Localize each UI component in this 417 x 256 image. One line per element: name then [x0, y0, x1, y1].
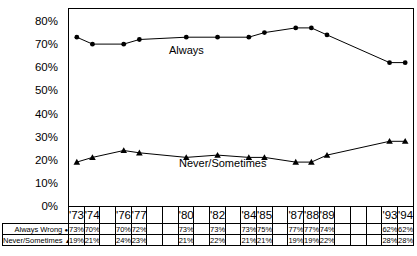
- value-cell: 62%: [382, 224, 398, 235]
- always-point: [262, 30, 267, 35]
- year-cell: '77: [131, 207, 147, 224]
- year-cell: '76: [116, 207, 132, 224]
- value-cell: 21%: [178, 235, 194, 246]
- value-cell: 72%: [131, 224, 147, 235]
- always-point: [325, 32, 330, 37]
- value-cell: [147, 235, 163, 246]
- value-cell: 73%: [69, 224, 85, 235]
- never-sometimes-point: [120, 147, 127, 153]
- year-cell: [194, 207, 210, 224]
- year-cell: '82: [210, 207, 226, 224]
- year-cell: [147, 207, 163, 224]
- plot-area: Always Never/Sometimes: [68, 8, 414, 207]
- value-cell: [100, 224, 116, 235]
- value-cell: 77%: [304, 224, 320, 235]
- value-cell: 21%: [84, 235, 100, 246]
- always-point: [309, 26, 314, 31]
- y-tick-label: 30%: [0, 130, 58, 144]
- value-cell: 75%: [257, 224, 273, 235]
- table-row: Never/Sometimes ▲19%21%24%23%21%22%21%21…: [3, 235, 414, 246]
- y-tick-label: 70%: [0, 37, 58, 51]
- value-cell: 73%: [210, 224, 226, 235]
- table-row: Always Wrong ●73%70%70%72%73%73%73%75%77…: [3, 224, 414, 235]
- year-cell: '85: [257, 207, 273, 224]
- always-point: [184, 35, 189, 40]
- y-tick-label: 80%: [0, 14, 58, 28]
- year-cell: '73: [69, 207, 85, 224]
- value-cell: 28%: [398, 235, 414, 246]
- value-cell: [351, 235, 367, 246]
- value-cell: 22%: [210, 235, 226, 246]
- always-point: [403, 60, 408, 65]
- y-tick-label: 10%: [0, 176, 58, 190]
- year-cell: [225, 207, 241, 224]
- value-cell: [194, 235, 210, 246]
- always-point: [387, 60, 392, 65]
- row-label-text: Always Wrong: [14, 225, 64, 234]
- value-cell: 19%: [304, 235, 320, 246]
- value-cell: [163, 235, 179, 246]
- row-label-always-wrong: Always Wrong ●: [3, 224, 69, 235]
- always-point: [293, 26, 298, 31]
- year-cell: [163, 207, 179, 224]
- year-cell: '88: [304, 207, 320, 224]
- table-corner-cell: [3, 207, 69, 224]
- year-cell: [366, 207, 382, 224]
- value-cell: 70%: [84, 224, 100, 235]
- data-table: '73'74'76'77'80'82'84'85'87'88'89'93'94A…: [2, 207, 414, 246]
- value-cell: [272, 224, 288, 235]
- y-tick-label: 20%: [0, 153, 58, 167]
- always-point: [74, 35, 79, 40]
- year-cell: '80: [178, 207, 194, 224]
- always-point: [246, 35, 251, 40]
- year-cell: '94: [398, 207, 414, 224]
- year-cell: [272, 207, 288, 224]
- value-cell: 23%: [131, 235, 147, 246]
- year-cell: [335, 207, 351, 224]
- value-cell: 70%: [116, 224, 132, 235]
- value-cell: [194, 224, 210, 235]
- value-cell: [225, 224, 241, 235]
- triangle-marker-icon: ▲: [65, 238, 69, 244]
- circle-marker-icon: ●: [64, 227, 68, 233]
- value-cell: 73%: [241, 224, 257, 235]
- year-cell: '89: [319, 207, 335, 224]
- value-cell: 19%: [69, 235, 85, 246]
- value-cell: 19%: [288, 235, 304, 246]
- value-cell: 73%: [178, 224, 194, 235]
- year-cell: '87: [288, 207, 304, 224]
- year-cell: '74: [84, 207, 100, 224]
- always-point: [137, 37, 142, 42]
- row-label-never-sometimes: Never/Sometimes ▲: [3, 235, 69, 246]
- y-tick-label: 60%: [0, 60, 58, 74]
- year-cell: '84: [241, 207, 257, 224]
- value-cell: 74%: [319, 224, 335, 235]
- y-tick-label: 40%: [0, 107, 58, 121]
- value-cell: 21%: [257, 235, 273, 246]
- always-point: [121, 42, 126, 47]
- value-cell: [335, 235, 351, 246]
- value-cell: 22%: [319, 235, 335, 246]
- value-cell: [335, 224, 351, 235]
- always-line: [77, 28, 405, 63]
- value-cell: 24%: [116, 235, 132, 246]
- value-cell: 77%: [288, 224, 304, 235]
- value-cell: [366, 235, 382, 246]
- value-cell: 28%: [382, 235, 398, 246]
- value-cell: 62%: [398, 224, 414, 235]
- line-chart: [69, 9, 413, 206]
- value-cell: [351, 224, 367, 235]
- year-cell: '93: [382, 207, 398, 224]
- value-cell: [272, 235, 288, 246]
- value-cell: [366, 224, 382, 235]
- value-cell: 21%: [241, 235, 257, 246]
- year-cell: [351, 207, 367, 224]
- value-cell: [163, 224, 179, 235]
- value-cell: [100, 235, 116, 246]
- row-label-text: Never/Sometimes: [3, 236, 65, 245]
- value-cell: [225, 235, 241, 246]
- y-tick-label: 50%: [0, 83, 58, 97]
- crime-attitudes-line-chart: Always Never/Sometimes 80%70%60%50%40%30…: [0, 0, 417, 256]
- always-point: [215, 35, 220, 40]
- year-cell: [100, 207, 116, 224]
